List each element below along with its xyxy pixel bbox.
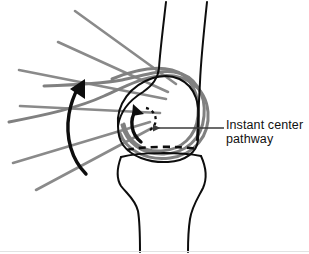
femur-flexion-arrow-group: [68, 79, 86, 174]
guide-line-5: [13, 122, 150, 163]
ghost-femur-outlines-group: [9, 68, 208, 158]
bottom-rule-divider: [0, 251, 309, 252]
instant-center-pathway-label-line2: pathway: [226, 132, 273, 146]
tibia-plateau-and-shaft-lateral: [188, 156, 205, 252]
instant-center-pathway-label-line1: Instant center: [226, 118, 303, 132]
condyle-rotation-arrow-head: [132, 104, 144, 116]
knee-instant-center-figure: Instant center pathway: [0, 0, 309, 254]
femur-flexion-arrow-shaft: [68, 88, 86, 174]
tibia-plateau-and-shaft-medial: [118, 157, 140, 252]
tibia-group: [118, 153, 206, 252]
femur-shaft-anterior: [118, 2, 166, 126]
